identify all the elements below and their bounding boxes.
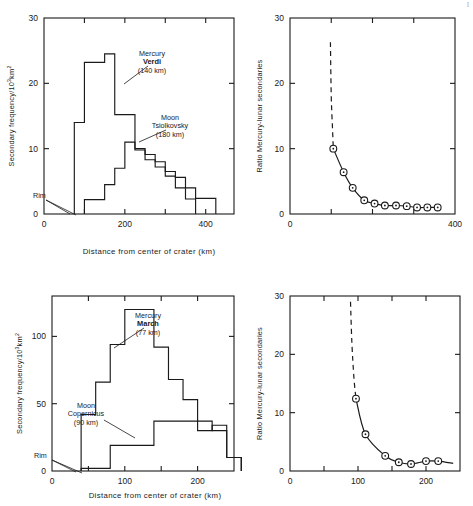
y-tick-label: 100	[32, 331, 46, 341]
annotation-rim: Rim	[33, 191, 46, 200]
data-point-center	[416, 207, 418, 209]
data-point-center	[343, 171, 345, 173]
x-axis-title: Distance from center of crater (km)	[89, 491, 222, 500]
y-tick-label: 10	[275, 144, 285, 154]
x-tick-label: 200	[118, 219, 132, 229]
data-point-center	[363, 199, 365, 201]
data-point-center	[437, 207, 439, 209]
y-tick-label: 20	[275, 78, 285, 88]
histogram-mercury-verdi	[74, 54, 215, 214]
y-axis-title-text: Secondary frequency/103km2	[14, 333, 24, 434]
annotation-line: Rim	[34, 451, 47, 460]
y-axis-title-text: Secondary frequency/103km2	[6, 66, 16, 167]
data-point-center	[406, 205, 408, 207]
y-tick-label: 30	[29, 13, 39, 23]
ratio-curve-dashed-head	[330, 42, 333, 148]
annotation-line: (180 km)	[156, 130, 184, 139]
panel-b-svg: 04000102030Ratio Mercury-lunar secondari…	[248, 0, 473, 262]
annotation-mercury-march: MercuryMarch(77 km)	[135, 311, 161, 337]
x-tick-label: 0	[288, 219, 293, 229]
data-point-center	[437, 460, 439, 462]
y-axis-title: Ratio Mercury-lunar secondaries	[255, 59, 264, 172]
x-tick-label: 100	[118, 476, 132, 486]
histogram-mercury-march	[81, 309, 241, 471]
y-axis-title-text: Ratio Mercury-lunar secondaries	[255, 327, 264, 440]
data-point-center	[374, 203, 376, 205]
panel-c-svg: 0100200050100Secondary frequency/103km2M…	[0, 262, 260, 506]
data-point-center	[365, 433, 367, 435]
data-point-center	[384, 455, 386, 457]
x-tick-label: 200	[191, 476, 205, 486]
x-tick-label: 200	[419, 476, 433, 486]
annotation-moon-copernicus: MoonCopernicus(90 km)	[68, 401, 105, 427]
x-tick-label: 100	[351, 476, 365, 486]
ratio-curve	[333, 149, 437, 208]
y-tick-label: 30	[275, 291, 285, 301]
leader-line	[46, 200, 76, 215]
y-tick-label: 0	[41, 466, 46, 476]
y-tick-label: 20	[275, 349, 285, 359]
data-point-center	[398, 461, 400, 463]
y-tick-label: 20	[29, 78, 39, 88]
y-tick-label: 50	[37, 399, 47, 409]
ratio-curve	[356, 399, 453, 464]
x-axis-title: Distance from center of crater (km)	[83, 247, 216, 256]
panel-c-mercury-march-histogram: 0100200050100Secondary frequency/103km2M…	[0, 262, 260, 506]
leader-line	[104, 420, 135, 438]
axes-frame: 01002000102030	[275, 291, 460, 486]
annotation-line: (77 km)	[136, 328, 160, 337]
data-point-center	[332, 148, 334, 150]
annotation-line: (90 km)	[74, 418, 98, 427]
data-point-center	[426, 207, 428, 209]
panel-d-ratio-curve: 01002000102030Ratio Mercury-lunar second…	[248, 262, 473, 506]
data-point-center	[384, 205, 386, 207]
data-point-center	[355, 398, 357, 400]
annotation-rim: Rim	[34, 451, 47, 460]
annotation-moon-tsiolkovsky: MoonTsiolkovsky(180 km)	[152, 113, 189, 139]
leader-line	[114, 328, 144, 348]
y-tick-label: 0	[33, 209, 38, 219]
y-tick-label: 10	[275, 408, 285, 418]
panel-a-mercury-verdi-histogram: 02004000102030Secondary frequency/103km2…	[0, 0, 260, 262]
axes-frame: 02004000102030	[29, 13, 234, 229]
x-tick-label: 0	[50, 476, 55, 486]
panel-b-ratio-curve: 04000102030Ratio Mercury-lunar secondari…	[248, 0, 473, 262]
x-tick-label: 400	[448, 219, 462, 229]
histogram-moon-copernicus	[81, 421, 241, 471]
y-tick-label: 10	[29, 144, 39, 154]
data-point-center	[395, 205, 397, 207]
y-axis-title: Secondary frequency/103km2	[6, 66, 16, 167]
y-tick-label: 0	[279, 209, 284, 219]
x-tick-label: 0	[288, 476, 293, 486]
panel-a-svg: 02004000102030Secondary frequency/103km2…	[0, 0, 260, 262]
x-tick-label: 400	[199, 219, 213, 229]
y-axis-title: Ratio Mercury-lunar secondaries	[255, 327, 264, 440]
annotation-line: Rim	[33, 191, 46, 200]
figure-root: [ 02004000102030Secondary frequency/103k…	[0, 0, 473, 506]
data-point-center	[425, 460, 427, 462]
y-tick-label: 0	[279, 466, 284, 476]
histogram-moon-tsiolkovsky	[84, 142, 195, 214]
panel-d-svg: 01002000102030Ratio Mercury-lunar second…	[248, 262, 473, 506]
y-axis-title-text: Ratio Mercury-lunar secondaries	[255, 59, 264, 172]
ratio-curve-dashed-head	[351, 302, 356, 399]
data-point-center	[352, 187, 354, 189]
leader-line	[124, 66, 148, 84]
y-tick-label: 30	[275, 13, 285, 23]
x-tick-label: 0	[42, 219, 47, 229]
y-axis-title: Secondary frequency/103km2	[14, 333, 24, 434]
data-point-center	[410, 463, 412, 465]
axes-frame: 0100200050100	[32, 296, 234, 486]
axes-frame: 04000102030	[275, 13, 463, 229]
